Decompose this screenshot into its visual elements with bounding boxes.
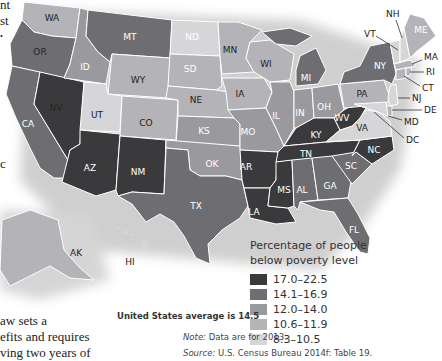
svg-text:ME: ME xyxy=(414,25,428,35)
svg-text:LA: LA xyxy=(248,207,260,217)
svg-text:IA: IA xyxy=(236,89,246,99)
svg-text:SC: SC xyxy=(345,161,357,171)
legend-swatch xyxy=(250,289,267,300)
svg-text:OR: OR xyxy=(33,47,46,57)
map-legend: Percentage of people below poverty level… xyxy=(250,238,430,347)
svg-text:VA: VA xyxy=(356,123,369,133)
svg-text:MO: MO xyxy=(241,127,256,137)
svg-text:DE: DE xyxy=(424,105,437,115)
svg-text:ND: ND xyxy=(185,32,199,42)
svg-text:MS: MS xyxy=(277,185,291,195)
legend-label: 12.0–14.0 xyxy=(273,303,327,316)
svg-text:VT: VT xyxy=(364,29,376,39)
svg-text:CO: CO xyxy=(139,118,152,128)
svg-text:WY: WY xyxy=(131,75,146,85)
svg-text:KY: KY xyxy=(310,130,322,140)
svg-text:MN: MN xyxy=(223,45,238,55)
svg-text:NH: NH xyxy=(386,9,400,19)
svg-text:CT: CT xyxy=(422,83,434,93)
svg-text:MA: MA xyxy=(424,52,439,62)
svg-text:NC: NC xyxy=(367,145,380,155)
state-CT xyxy=(396,68,406,80)
svg-text:MT: MT xyxy=(123,32,137,42)
note-text: Data are for 2013. xyxy=(206,332,287,342)
svg-text:RI: RI xyxy=(426,67,435,77)
svg-text:NV: NV xyxy=(50,103,64,113)
legend-item: 10.6–11.9 xyxy=(250,317,430,332)
source-label: Source: xyxy=(183,348,215,358)
legend-label: 10.6–11.9 xyxy=(273,318,327,331)
svg-text:AL: AL xyxy=(296,185,307,195)
svg-text:WI: WI xyxy=(260,59,272,69)
svg-text:NY: NY xyxy=(374,61,387,71)
svg-text:AZ: AZ xyxy=(84,163,96,173)
svg-text:NM: NM xyxy=(131,167,146,177)
svg-text:MD: MD xyxy=(404,117,419,127)
legend-label: 17.0–22.5 xyxy=(273,273,327,286)
svg-text:GA: GA xyxy=(323,181,337,191)
state-NJ xyxy=(388,84,398,106)
legend-item: 12.0–14.0 xyxy=(250,302,430,317)
legend-item: 17.0–22.5 xyxy=(250,272,430,287)
svg-text:WA: WA xyxy=(45,13,60,23)
svg-text:PA: PA xyxy=(356,89,368,99)
svg-text:AR: AR xyxy=(240,162,252,172)
svg-text:IL: IL xyxy=(272,111,280,121)
svg-text:CA: CA xyxy=(22,119,35,129)
svg-text:KS: KS xyxy=(198,126,210,136)
svg-text:OH: OH xyxy=(317,102,331,112)
svg-text:NJ: NJ xyxy=(412,93,421,103)
us-average-note: United States average is 14.5 xyxy=(117,311,259,321)
svg-text:TN: TN xyxy=(299,149,312,159)
legend-title-line2: below poverty level xyxy=(250,253,430,268)
legend-swatch xyxy=(250,274,267,285)
source-note: Source: U.S. Census Bureau 2014f: Table … xyxy=(183,348,372,358)
legend-title-line1: Percentage of people xyxy=(250,238,430,253)
note-label: Note: xyxy=(183,332,206,342)
data-note: Note: Data are for 2013. xyxy=(183,332,287,342)
legend-label: 14.1–16.9 xyxy=(273,288,327,301)
svg-text:NE: NE xyxy=(190,95,203,105)
svg-text:OK: OK xyxy=(206,159,220,169)
legend-item: 14.1–16.9 xyxy=(250,287,430,302)
svg-text:DC: DC xyxy=(406,135,419,145)
svg-text:TX: TX xyxy=(189,201,202,211)
svg-text:AK: AK xyxy=(70,248,83,258)
svg-text:WV: WV xyxy=(334,113,350,123)
svg-text:HI: HI xyxy=(125,257,134,267)
svg-text:MI: MI xyxy=(301,73,311,83)
svg-text:IN: IN xyxy=(295,108,304,118)
state-IA xyxy=(222,78,272,110)
source-text: U.S. Census Bureau 2014f: Table 19. xyxy=(215,348,372,358)
svg-text:ID: ID xyxy=(80,62,90,72)
svg-text:SD: SD xyxy=(184,64,197,74)
svg-text:FL: FL xyxy=(349,225,359,235)
svg-text:UT: UT xyxy=(91,110,104,120)
